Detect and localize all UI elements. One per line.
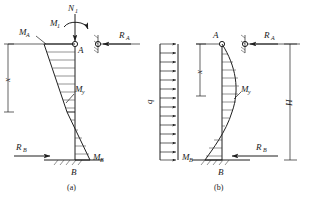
- reaction-rb-label-a: R: [15, 142, 22, 152]
- node-b-label-b: B: [218, 167, 224, 177]
- moment-mb-sub-a: B: [100, 157, 104, 163]
- axial-load-n1-label-a: N: [67, 3, 75, 13]
- dimension-x-label-a: x: [2, 78, 12, 83]
- dimension-x-label-b: x: [194, 70, 204, 75]
- applied-moment-m1-a: M 1: [49, 18, 88, 29]
- panel-distributed-load: q: [144, 44, 178, 160]
- reaction-rb-sub-a: B: [23, 147, 27, 153]
- moment-ma-callout-a: M A: [18, 27, 46, 44]
- reaction-ra-sub-b: A: [270, 35, 275, 41]
- node-a-label-a: A: [77, 45, 84, 55]
- reaction-rb-a: R B: [14, 142, 50, 156]
- axial-load-n1-sub-a: 1: [75, 8, 78, 14]
- reaction-ra-label-a: R: [118, 30, 125, 40]
- distributed-load-label: q: [144, 99, 154, 104]
- dimension-h-label-b: H: [284, 99, 294, 107]
- reaction-rb-sub-b: B: [263, 147, 267, 153]
- support-a-b: [241, 35, 248, 53]
- panel-a: R A N 1 M 1 A: [2, 3, 140, 192]
- caption-panel-a: (a): [67, 183, 76, 192]
- node-a-label-b: A: [212, 30, 219, 40]
- moment-ma-sub-a: A: [25, 32, 30, 38]
- reaction-rb-label-b: R: [255, 142, 262, 152]
- moment-my-sub-b: y: [247, 89, 251, 95]
- node-b-label-a: B: [71, 167, 77, 177]
- support-a-a: [94, 35, 101, 53]
- reaction-ra-sub-a: A: [125, 35, 130, 41]
- applied-moment-m1-sub-a: 1: [57, 23, 60, 29]
- dimension-x-a: x: [2, 44, 14, 112]
- dimension-x-b: x: [194, 44, 206, 96]
- moment-my-sub-a: y: [81, 89, 85, 95]
- engineering-figure: R A N 1 M 1 A: [0, 0, 312, 197]
- dimension-h-b: H: [284, 44, 297, 160]
- moment-mb-sub-b: B: [189, 157, 193, 163]
- caption-panel-b: (b): [214, 183, 224, 192]
- reaction-ra-label-b: R: [263, 30, 270, 40]
- panel-b: A R A: [181, 30, 300, 192]
- reaction-rb-b: R B: [232, 142, 278, 156]
- fixed-support-b-b: [192, 160, 250, 165]
